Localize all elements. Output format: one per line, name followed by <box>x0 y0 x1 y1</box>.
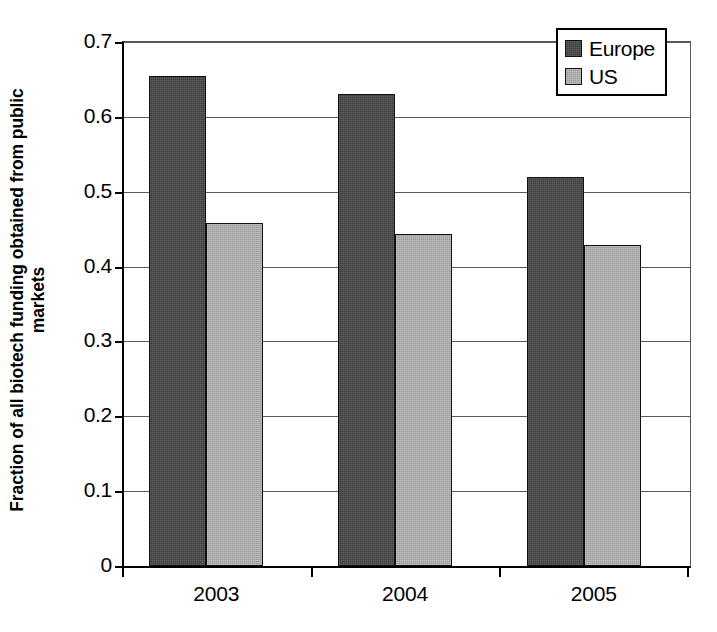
y-axis-title-line-2: markets <box>28 267 49 333</box>
legend-swatch-europe-icon <box>565 40 582 57</box>
y-axis-tick-mark <box>115 42 124 44</box>
y-axis-tick-labels: 00.10.20.30.40.50.60.7 <box>52 41 112 565</box>
legend-item-us: US <box>565 63 655 89</box>
bar-us-2004 <box>395 234 452 566</box>
legend-label-europe: Europe <box>589 38 655 59</box>
plot-area <box>122 41 691 568</box>
y-axis-tick-label: 0.7 <box>52 29 112 53</box>
y-axis-tick-mark <box>115 341 124 343</box>
y-axis-tick-label: 0.3 <box>52 328 112 352</box>
x-axis-tick-marks <box>122 567 688 579</box>
gridline <box>124 117 690 118</box>
y-axis-title: Fraction of all biotech funding obtained… <box>0 0 56 600</box>
bar-us-2003 <box>206 223 263 566</box>
y-axis-tick-mark <box>115 491 124 493</box>
x-axis-tick-labels: 200320042005 <box>122 582 688 612</box>
x-axis-tick-mark <box>311 567 313 577</box>
legend-item-europe: Europe <box>565 35 655 61</box>
gridline <box>124 192 690 193</box>
x-axis-tick-mark <box>499 567 501 577</box>
y-axis-tick-mark <box>115 267 124 269</box>
x-axis-tick-label: 2005 <box>571 582 617 606</box>
y-axis-title-line-1: Fraction of all biotech funding obtained… <box>7 88 28 512</box>
legend-label-us: US <box>589 66 618 87</box>
x-axis-tick-mark <box>687 567 689 577</box>
bar-us-2005 <box>584 245 641 566</box>
y-axis-tick-label: 0.2 <box>52 403 112 427</box>
y-axis-tick-mark <box>115 192 124 194</box>
y-axis-tick-label: 0.1 <box>52 478 112 502</box>
legend-swatch-us-icon <box>565 68 582 85</box>
bar-europe-2005 <box>527 177 584 566</box>
x-axis-tick-label: 2003 <box>193 582 239 606</box>
y-axis-tick-mark <box>115 416 124 418</box>
x-axis-tick-label: 2004 <box>382 582 428 606</box>
y-axis-tick-label: 0 <box>52 553 112 577</box>
bar-europe-2004 <box>338 94 395 566</box>
bar-chart-figure: Fraction of all biotech funding obtained… <box>0 0 717 632</box>
y-axis-tick-mark <box>115 117 124 119</box>
y-axis-title-rotated: Fraction of all biotech funding obtained… <box>0 10 56 590</box>
y-axis-tick-label: 0.4 <box>52 254 112 278</box>
x-axis-tick-mark <box>122 567 124 577</box>
chart-legend: Europe US <box>556 28 667 96</box>
y-axis-tick-label: 0.5 <box>52 179 112 203</box>
bar-europe-2003 <box>149 76 206 566</box>
y-axis-tick-label: 0.6 <box>52 104 112 128</box>
